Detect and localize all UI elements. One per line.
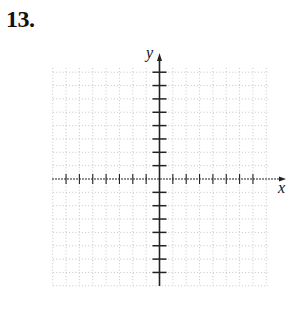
y-axis-label: y: [144, 44, 154, 62]
grid-lines: [53, 68, 268, 286]
y-axis-arrow-icon: [157, 53, 162, 61]
x-axis-label: x: [277, 179, 285, 196]
axes: [52, 53, 286, 286]
coordinate-grid: x y: [0, 0, 295, 309]
